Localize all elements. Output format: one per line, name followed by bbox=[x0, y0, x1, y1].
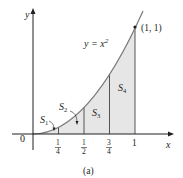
x-axis-label: x bbox=[165, 139, 171, 150]
tick-quarter: 1 4 bbox=[55, 138, 61, 156]
figure-caption: (a) bbox=[83, 166, 94, 177]
svg-text:3: 3 bbox=[107, 138, 111, 147]
y-axis-arrow-icon bbox=[31, 8, 36, 14]
point-marker bbox=[133, 25, 136, 28]
tick-three-quarter: 3 4 bbox=[106, 138, 112, 156]
tick-one: 1 bbox=[132, 138, 137, 148]
svg-text:4: 4 bbox=[107, 147, 111, 156]
region-label-s2: S2 bbox=[59, 101, 67, 113]
svg-text:1: 1 bbox=[82, 138, 86, 147]
tick-half: 1 2 bbox=[81, 138, 87, 156]
region-label-s1: S1 bbox=[40, 114, 48, 126]
x-axis-arrow-icon bbox=[168, 132, 174, 137]
point-label: (1, 1) bbox=[141, 23, 162, 34]
svg-text:2: 2 bbox=[82, 147, 86, 156]
svg-text:1: 1 bbox=[56, 138, 60, 147]
y-axis-label: y bbox=[24, 9, 30, 20]
svg-text:4: 4 bbox=[56, 147, 60, 156]
curve-label: y = x2 bbox=[83, 37, 109, 49]
origin-label: 0 bbox=[20, 133, 25, 144]
parabola-diagram: y x 0 (1, 1) y = x2 1 4 1 2 3 4 1 S1 S2 … bbox=[0, 0, 183, 178]
